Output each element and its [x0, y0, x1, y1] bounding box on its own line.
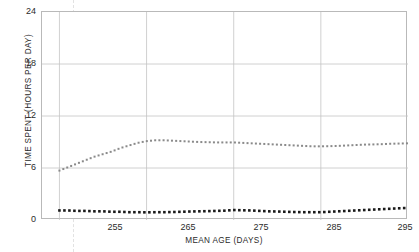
- x-tick-label-285: 285: [314, 222, 354, 232]
- data-point-marker: [385, 143, 387, 145]
- data-point-marker: [108, 210, 111, 213]
- data-point-marker: [209, 141, 211, 143]
- data-point-marker: [153, 211, 156, 214]
- data-point-marker: [58, 170, 60, 172]
- data-point-marker: [88, 210, 91, 213]
- data-point-marker: [247, 142, 249, 144]
- data-point-marker: [398, 143, 400, 145]
- data-point-marker: [242, 142, 244, 144]
- data-point-marker: [78, 210, 81, 213]
- data-point-marker: [68, 209, 71, 212]
- data-point-marker: [309, 145, 311, 147]
- data-point-marker: [368, 144, 370, 146]
- data-point-marker: [303, 211, 306, 214]
- data-point-marker: [356, 144, 358, 146]
- data-point-marker: [360, 144, 362, 146]
- data-point-marker: [74, 163, 76, 165]
- data-point-marker: [313, 211, 316, 214]
- data-point-marker: [158, 139, 160, 141]
- data-point-marker: [358, 209, 361, 212]
- data-point-marker: [283, 210, 286, 213]
- data-point-marker: [188, 210, 191, 213]
- data-point-marker: [183, 210, 186, 213]
- data-point-marker: [348, 209, 351, 212]
- data-point-marker: [128, 211, 131, 214]
- data-point-marker: [158, 211, 161, 214]
- data-point-marker: [377, 143, 379, 145]
- data-point-marker: [58, 209, 61, 212]
- data-point-marker: [305, 145, 307, 147]
- plot-canvas: [42, 12, 408, 220]
- data-point-marker: [251, 142, 253, 144]
- data-point-marker: [383, 208, 386, 211]
- data-point-marker: [347, 144, 349, 146]
- data-point-marker: [98, 154, 100, 156]
- data-point-marker: [276, 144, 278, 146]
- data-point-marker: [228, 209, 231, 212]
- data-point-marker: [368, 208, 371, 211]
- data-point-marker: [298, 211, 301, 214]
- data-point-marker: [333, 210, 336, 213]
- data-point-marker: [193, 210, 196, 213]
- data-point-marker: [62, 168, 64, 170]
- data-point-marker: [381, 143, 383, 145]
- data-point-marker: [93, 210, 96, 213]
- data-point-marker: [205, 141, 207, 143]
- data-point-marker: [255, 143, 257, 145]
- data-point-marker: [314, 145, 316, 147]
- data-point-marker: [130, 144, 132, 146]
- data-point-marker: [406, 142, 408, 144]
- data-point-marker: [259, 143, 261, 145]
- data-point-marker: [263, 210, 266, 213]
- x-tick-label-295: 295: [385, 222, 419, 232]
- chart-figure: TIME SPENT (HOURS PER DAY) 24 18 12 6 0 …: [0, 0, 419, 252]
- data-point-marker: [114, 149, 116, 151]
- data-point-marker: [123, 211, 126, 214]
- data-point-marker: [258, 210, 261, 213]
- data-point-marker: [184, 140, 186, 142]
- data-point-marker: [278, 210, 281, 213]
- data-point-marker: [243, 209, 246, 212]
- data-point-marker: [106, 152, 108, 154]
- y-tick-label-18: 18: [6, 58, 36, 68]
- data-point-marker: [301, 145, 303, 147]
- data-point-marker: [198, 210, 201, 213]
- data-point-marker: [364, 144, 366, 146]
- data-point-marker: [218, 210, 221, 213]
- data-point-marker: [398, 207, 401, 210]
- data-point-marker: [267, 143, 269, 145]
- y-tick-label-12: 12: [6, 110, 36, 120]
- data-point-marker: [268, 210, 271, 213]
- data-point-marker: [253, 209, 256, 212]
- data-point-marker: [293, 144, 295, 146]
- data-point-marker: [168, 211, 171, 214]
- x-tick-label-275: 275: [241, 222, 281, 232]
- data-point-marker: [118, 210, 121, 213]
- data-point-marker: [196, 141, 198, 143]
- data-point-marker: [82, 160, 84, 162]
- data-point-marker: [138, 142, 140, 144]
- data-point-marker: [403, 207, 406, 210]
- data-point-marker: [288, 211, 291, 214]
- y-axis-tick-labels: 24 18 12 6 0: [3, 0, 36, 252]
- data-point-marker: [70, 165, 72, 167]
- data-point-marker: [213, 210, 216, 213]
- data-point-marker: [297, 145, 299, 147]
- data-point-marker: [167, 139, 169, 141]
- data-point-marker: [389, 143, 391, 145]
- data-point-marker: [113, 210, 116, 213]
- data-point-marker: [230, 141, 232, 143]
- data-point-marker: [272, 143, 274, 145]
- data-point-marker: [118, 148, 120, 150]
- data-point-marker: [103, 210, 106, 213]
- data-point-marker: [353, 209, 356, 212]
- data-point-marker: [372, 143, 374, 145]
- data-point-marker: [393, 207, 396, 210]
- data-point-marker: [163, 139, 165, 141]
- data-point-marker: [63, 209, 66, 212]
- data-point-marker: [238, 209, 241, 212]
- data-point-marker: [217, 141, 219, 143]
- data-point-marker: [179, 140, 181, 142]
- data-point-marker: [98, 210, 101, 213]
- data-point-marker: [363, 209, 366, 212]
